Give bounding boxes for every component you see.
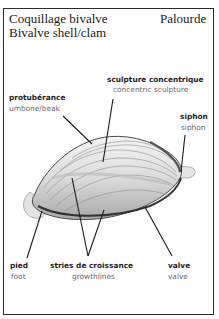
label-growthlines-en: growthlines [72, 272, 115, 281]
label-growthlines-fr: stries de croissance [50, 261, 133, 270]
label-foot-en: foot [11, 272, 26, 281]
label-siphon-en: siphon [181, 123, 206, 132]
label-foot-fr: pied [10, 261, 28, 270]
label-sculpture-fr: sculpture concentrique [107, 75, 204, 84]
label-umbone-fr: protubérance [9, 93, 65, 102]
label-umbone-en: umbone/beak [9, 104, 60, 113]
label-sculpture-en: concentric sculpture [113, 85, 188, 94]
leader-valve [145, 207, 172, 256]
label-valve-en: valve [168, 272, 188, 281]
label-valve-fr: valve [168, 261, 190, 270]
label-siphon-fr: siphon [180, 112, 208, 121]
leader-umbone [63, 116, 92, 144]
